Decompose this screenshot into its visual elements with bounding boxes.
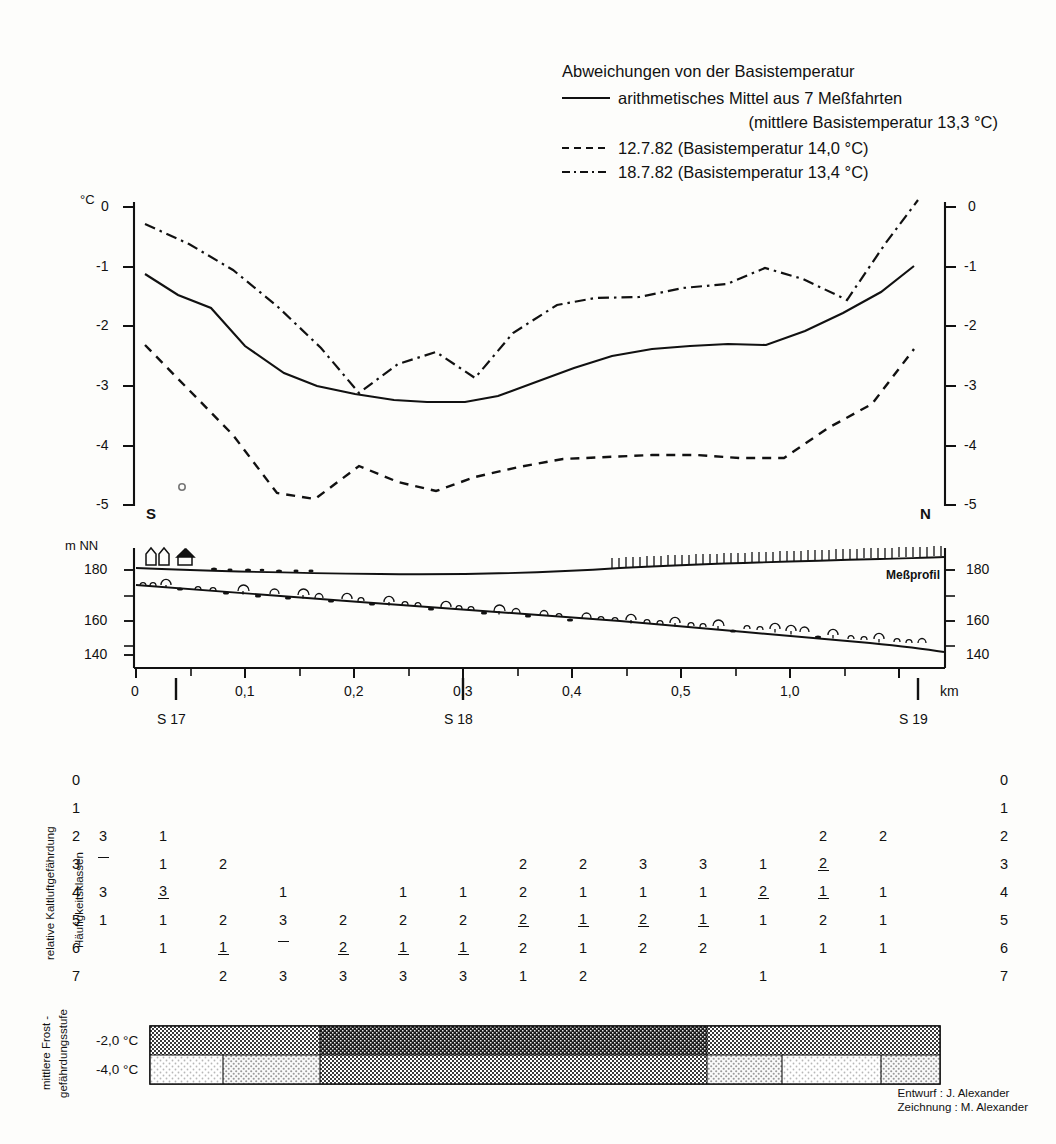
freq-row-label-left-2: 2 [72,828,80,844]
temp-ytick-right-0: 0 [968,198,976,214]
xtick-label-1: 0,1 [235,683,254,699]
frost-side-label-line2: gefährdungsstufe [57,1009,69,1098]
frost-bot-seg-3 [707,1055,782,1084]
temp-ytick-left-2: -2 [96,317,108,333]
freq-cell-numerator: 1 [398,941,409,955]
profile-ytick-left-2: 140 [84,646,107,662]
freq-cell-numerator: 3 [158,885,169,899]
freq-cell-numerator [98,857,109,858]
freq-cell-r4-c10: 1 [690,884,716,900]
x-axis-unit-label: km [940,683,959,699]
freq-cell-r4-c0: 3 [90,884,116,900]
profile-panel-axes [124,548,955,668]
house-icon [159,548,169,565]
temp-ytick-left-5: -5 [96,496,108,512]
freq-cell-numerator: 1 [698,913,709,927]
freq-cell-r3-c2: 2 [210,856,236,872]
freq-cell-r7-c8: 2 [570,968,596,984]
freq-row-label-right-5: 5 [1000,912,1008,928]
freq-cell-r4-c11: 2 [750,885,776,899]
freq-cell-r6-c1: 1 [150,940,176,956]
temp-ytick-right-1: -1 [964,258,976,274]
freq-cell-r7-c11: 1 [750,968,776,984]
freq-row-label-right-3: 3 [1000,856,1008,872]
temp-ytick-left-0: 0 [101,198,109,214]
freq-row-label-right-4: 4 [1000,884,1008,900]
freq-cell-r4-c12: 1 [810,885,836,899]
frost-bot-seg-2 [320,1055,707,1084]
vegetation-lower [140,579,926,643]
freq-row-label-right-1: 1 [1000,800,1008,816]
frost-bot-seg-4 [782,1055,881,1084]
direction-south-label: S [146,505,156,522]
freq-cell-r7-c2: 2 [210,968,236,984]
freq-cell-r5-c2: 2 [210,912,236,928]
frost-bot-seg-1 [223,1055,320,1084]
house-icon [146,548,156,565]
xtick-label-4: 0,4 [562,683,581,699]
temp-ytick-left-1: -1 [96,258,108,274]
frequency-table: 0011223344556677312212223312331112111211… [0,760,1056,990]
freq-cell-r5-c0: 1 [90,912,116,928]
freq-cell-numerator: 1 [458,941,469,955]
freq-cell-r3-c0 [90,857,116,858]
terrain-lines [136,557,944,652]
freq-cell-r5-c11: 1 [750,912,776,928]
temp-ytick-left-3: -3 [96,377,108,393]
freq-cell-r5-c10: 1 [690,913,716,927]
frost-bar-group [150,1026,940,1084]
freq-cell-r4-c3: 1 [270,884,296,900]
profile-unit-label: m NN [65,538,98,553]
freq-cell-r6-c6: 1 [450,941,476,955]
artifact-dot [179,484,185,490]
freq-cell-r4-c5: 1 [390,884,416,900]
freq-cell-r5-c1: 1 [150,912,176,928]
freq-cell-numerator: 2 [758,885,769,899]
freq-cell-r2-c0: 3 [90,828,116,844]
freq-cell-r5-c9: 2 [630,913,656,927]
profile-hatch-marks [612,546,941,568]
credit-zeichnung: Zeichnung : M. Alexander [898,1100,1028,1114]
frost-top-seg-0 [150,1026,320,1055]
settlement-symbols [146,548,194,565]
freq-cell-numerator: 2 [338,941,349,955]
freq-cell-r6-c13: 1 [870,940,896,956]
xtick-label-6: 1,0 [780,683,799,699]
freq-cell-r5-c12: 2 [810,912,836,928]
freq-cell-r6-c8: 1 [570,940,596,956]
freq-cell-r5-c7: 2 [510,913,536,927]
freq-cell-r7-c6: 3 [450,968,476,984]
frost-row-label-1: -4,0 °C [96,1062,138,1077]
temp-series-group [145,200,918,499]
freq-cell-r6-c4: 2 [330,941,356,955]
freq-cell-numerator: 2 [818,857,829,871]
frost-row-label-0: -2,0 °C [96,1033,138,1048]
freq-cell-r7-c3: 3 [270,968,296,984]
freq-row-label-left-7: 7 [72,968,80,984]
freq-cell-r3-c10: 3 [690,856,716,872]
xtick-label-5: 0,5 [671,683,690,699]
frost-bot-seg-0 [150,1055,223,1084]
freq-row-label-right-7: 7 [1000,968,1008,984]
station-label-s18: S 18 [444,711,473,727]
series-1207-line [145,345,914,499]
freq-cell-r6-c7: 2 [510,940,536,956]
freq-cell-r6-c10: 2 [690,940,716,956]
freq-cell-r5-c13: 1 [870,912,896,928]
temp-ytick-left-4: -4 [96,437,108,453]
temp-panel-axes [123,202,956,506]
xtick-label-0: 0 [131,683,139,699]
freq-cell-r3-c12: 2 [810,857,836,871]
profile-ytick-right-0: 180 [966,561,989,577]
freq-cell-r2-c12: 2 [810,828,836,844]
freq-cell-r5-c3: 3 [270,912,296,928]
profile-ytick-left-0: 180 [84,561,107,577]
station-label-s17: S 17 [157,711,186,727]
freq-side-label-inner: Häufigkeitsklassen [73,852,85,948]
freq-cell-r7-c7: 1 [510,968,536,984]
credits-block: Entwurf : J. Alexander Zeichnung : M. Al… [898,1086,1028,1114]
terrain-upper-line [136,557,944,574]
freq-cell-r5-c8: 1 [570,913,596,927]
temp-ytick-right-3: -3 [964,377,976,393]
freq-cell-numerator: 2 [518,913,529,927]
